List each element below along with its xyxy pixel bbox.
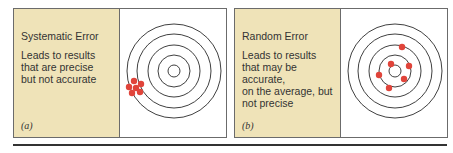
description-line: that may be accurate, [242, 61, 334, 85]
target-ring [369, 45, 421, 97]
description-line: Leads to results [242, 49, 334, 61]
description-line: on the average, but [242, 85, 334, 97]
panel-description: Leads to results that are precise but no… [21, 49, 113, 85]
bottom-divider [13, 144, 447, 146]
panel-random-error: Random Error Leads to results that may b… [234, 8, 448, 138]
target-ring [127, 24, 221, 118]
hit-dot [399, 44, 405, 50]
hit-dot [386, 85, 392, 91]
caption-box: Systematic Error Leads to results that a… [14, 9, 120, 137]
hit-dot [138, 81, 144, 87]
hit-dot [376, 72, 382, 78]
hit-dot [401, 76, 407, 82]
description-line: but not accurate [21, 73, 113, 85]
panel-systematic-error: Systematic Error Leads to results that a… [13, 8, 227, 138]
target-ring [379, 55, 411, 87]
bullseye-target-icon [120, 9, 228, 137]
panel-title: Systematic Error [21, 30, 113, 43]
target-ring [168, 65, 180, 77]
description-line: Leads to results [21, 49, 113, 61]
panel-label: (a) [21, 120, 33, 131]
target-ring [158, 55, 190, 87]
bullseye-target-icon [341, 9, 449, 137]
caption-box: Random Error Leads to results that may b… [235, 9, 341, 137]
hit-dot [126, 84, 132, 90]
panel-title: Random Error [242, 30, 334, 43]
target-diagram [120, 9, 226, 137]
description-line: that are precise [21, 61, 113, 73]
hit-dot [129, 90, 135, 96]
panel-description: Leads to results that may be accurate, o… [242, 49, 334, 109]
hit-dot [137, 89, 143, 95]
target-ring [348, 24, 442, 118]
hit-dot [406, 63, 412, 69]
hit-dot [131, 78, 137, 84]
target-ring [148, 45, 200, 97]
description-line: not precise [242, 97, 334, 109]
hit-dot [388, 61, 394, 67]
target-diagram [341, 9, 447, 137]
panel-label: (b) [242, 120, 254, 131]
